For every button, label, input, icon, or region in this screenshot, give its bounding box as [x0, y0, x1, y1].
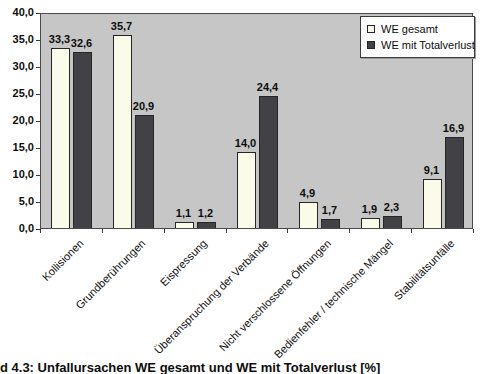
- x-axis-tick-mark: [40, 229, 41, 233]
- bar-totalverlust: [259, 96, 278, 228]
- y-axis-tick-mark: [36, 202, 40, 203]
- y-axis-tick-mark: [36, 94, 40, 95]
- bar-gesamt: [237, 152, 256, 228]
- x-axis-tick-mark: [287, 229, 288, 233]
- bar-value-label: 32,6: [60, 37, 104, 49]
- x-axis-tick-mark: [411, 229, 412, 233]
- bar-totalverlust: [197, 222, 216, 228]
- legend-label: WE gesamt: [381, 23, 438, 35]
- bar-totalverlust: [321, 219, 340, 228]
- bar-value-label: 24,4: [246, 81, 290, 93]
- x-axis-tick-mark: [349, 229, 350, 233]
- y-axis-tick-label: 5,0: [0, 195, 34, 207]
- y-axis-tick-mark: [36, 13, 40, 14]
- bar-gesamt: [51, 48, 70, 228]
- y-axis-tick-label: 10,0: [0, 168, 34, 180]
- x-axis-tick-mark: [473, 229, 474, 233]
- legend-label: WE mit Totalverlust: [381, 39, 475, 51]
- bar-value-label: 35,7: [100, 20, 144, 32]
- y-axis-tick-label: 40,0: [0, 6, 34, 18]
- bar-chart-figure: 0,05,010,015,020,025,030,035,040,033,332…: [0, 0, 483, 374]
- y-axis-tick-label: 0,0: [0, 222, 34, 234]
- bar-value-label: 14,0: [224, 137, 268, 149]
- bar-totalverlust: [135, 115, 154, 228]
- bar-gesamt: [113, 35, 132, 228]
- bar-gesamt: [423, 179, 442, 228]
- x-axis-tick-mark: [164, 229, 165, 233]
- bar-value-label: 4,9: [286, 187, 330, 199]
- bar-value-label: 1,7: [308, 204, 352, 216]
- legend-item: WE mit Totalverlust: [367, 37, 469, 53]
- legend-item: WE gesamt: [367, 21, 469, 37]
- legend: WE gesamtWE mit Totalverlust: [360, 16, 475, 58]
- bar-value-label: 16,9: [432, 122, 476, 134]
- bar-value-label: 2,3: [370, 201, 414, 213]
- x-axis-tick-mark: [226, 229, 227, 233]
- bar-gesamt: [361, 218, 380, 228]
- bar-totalverlust: [445, 137, 464, 228]
- y-axis-tick-mark: [36, 148, 40, 149]
- y-axis-tick-label: 35,0: [0, 33, 34, 45]
- legend-swatch-icon: [367, 25, 375, 33]
- bar-value-label: 9,1: [410, 164, 454, 176]
- y-axis-tick-label: 25,0: [0, 87, 34, 99]
- bar-value-label: 1,2: [184, 207, 228, 219]
- y-axis-tick-mark: [36, 121, 40, 122]
- y-axis-tick-label: 15,0: [0, 141, 34, 153]
- y-axis-tick-label: 30,0: [0, 60, 34, 72]
- figure-caption: d 4.3: Unfallursachen WE gesamt und WE m…: [0, 360, 380, 374]
- bar-value-label: 20,9: [122, 100, 166, 112]
- y-axis-tick-mark: [36, 67, 40, 68]
- x-axis-tick-mark: [102, 229, 103, 233]
- bar-gesamt: [175, 222, 194, 228]
- bar-totalverlust: [73, 52, 92, 228]
- bar-totalverlust: [383, 216, 402, 228]
- y-axis-tick-mark: [36, 175, 40, 176]
- y-axis-tick-label: 20,0: [0, 114, 34, 126]
- legend-swatch-icon: [367, 41, 375, 49]
